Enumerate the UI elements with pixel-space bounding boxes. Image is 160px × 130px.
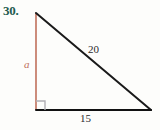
vertical-leg-label: a [24, 59, 30, 70]
triangle-figure: 30. a 20 15 [0, 0, 160, 130]
problem-number-label: 30. [3, 4, 19, 17]
horizontal-leg-label: 15 [80, 113, 91, 124]
right-angle-marker-icon [36, 101, 45, 110]
hypotenuse-line [36, 13, 151, 110]
hypotenuse-label: 20 [88, 44, 99, 55]
